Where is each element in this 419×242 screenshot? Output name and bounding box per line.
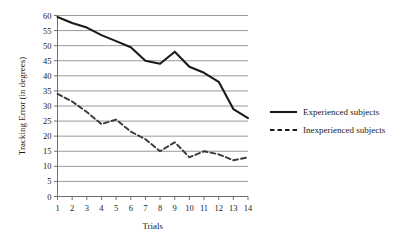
x-tick-label: 11 bbox=[200, 203, 208, 213]
x-tick-label: 6 bbox=[129, 203, 133, 213]
x-tick-label: 3 bbox=[85, 203, 89, 213]
y-tick-label: 55 bbox=[43, 26, 52, 36]
x-axis-label: Trials bbox=[142, 221, 163, 231]
legend-label-experienced: Experienced subjects bbox=[303, 107, 380, 117]
y-tick-label: 60 bbox=[43, 11, 52, 21]
y-tick-label: 45 bbox=[43, 56, 52, 66]
x-tick-label: 2 bbox=[70, 203, 74, 213]
y-tick-label: 5 bbox=[47, 176, 51, 186]
x-tick-label: 12 bbox=[214, 203, 223, 213]
y-tick-label: 15 bbox=[43, 146, 52, 156]
x-tick-label: 14 bbox=[244, 203, 253, 213]
y-tick-label: 50 bbox=[43, 41, 52, 51]
x-tick-label: 13 bbox=[229, 203, 238, 213]
y-tick-label: 0 bbox=[47, 192, 51, 202]
y-tick-label: 20 bbox=[43, 131, 52, 141]
x-tick-label: 10 bbox=[185, 203, 194, 213]
y-tick-label: 25 bbox=[43, 116, 52, 126]
y-tick-label: 40 bbox=[43, 71, 52, 81]
legend-label-inexperienced: Inexperienced subjects bbox=[303, 125, 386, 135]
chart-figure: 051015202530354045505560 123456789101112… bbox=[0, 0, 419, 242]
x-tick-label: 5 bbox=[114, 203, 118, 213]
y-axis-label: Tracking Error (in degrees) bbox=[17, 57, 27, 155]
tracking-error-line-chart: 051015202530354045505560 123456789101112… bbox=[0, 0, 419, 242]
x-tick-label: 8 bbox=[158, 203, 162, 213]
y-tick-label: 10 bbox=[43, 161, 52, 171]
x-tick-label: 7 bbox=[143, 203, 147, 213]
y-tick-label: 35 bbox=[43, 86, 52, 96]
x-tick-label: 4 bbox=[99, 203, 104, 213]
y-tick-label: 30 bbox=[43, 101, 52, 111]
x-tick-label: 1 bbox=[55, 203, 59, 213]
x-tick-label: 9 bbox=[173, 203, 177, 213]
